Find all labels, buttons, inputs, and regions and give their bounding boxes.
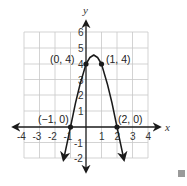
point-label-1-4: (1, 4) [106, 53, 131, 65]
point-1-4 [99, 61, 104, 66]
point-2-0 [114, 124, 119, 129]
point-label-0-4: (0, 4) [50, 53, 75, 65]
svg-text:3: 3 [130, 131, 136, 142]
corner-square-icon [178, 170, 185, 177]
svg-text:-1: -1 [74, 138, 83, 149]
svg-text:-4: -4 [17, 131, 26, 142]
y-tick-labels: 6 5 4 3 2 1 -1 -2 [74, 27, 84, 164]
svg-text:5: 5 [78, 43, 84, 54]
labeled-points [68, 61, 120, 129]
svg-text:4: 4 [78, 59, 84, 70]
svg-text:-2: -2 [48, 131, 57, 142]
svg-text:4: 4 [146, 131, 152, 142]
x-tick-labels: -4 -3 -2 -1 1 2 3 4 [17, 131, 152, 142]
svg-text:-2: -2 [74, 153, 83, 164]
point-label-2-0: (2, 0) [118, 113, 143, 125]
x-axis-label: x [164, 121, 170, 133]
point-label-neg1-0: (−1, 0) [38, 113, 69, 125]
svg-text:-3: -3 [33, 131, 42, 142]
graph-canvas: x y -4 -3 -2 -1 1 2 3 4 6 5 4 3 2 1 -1 -… [0, 0, 187, 186]
parabola-curve [64, 55, 125, 160]
point-0-4 [83, 61, 88, 66]
svg-text:1: 1 [99, 131, 105, 142]
svg-text:6: 6 [78, 27, 84, 38]
y-axis-label: y [82, 4, 88, 16]
point-neg1-0 [68, 124, 73, 129]
svg-text:1: 1 [78, 106, 84, 117]
